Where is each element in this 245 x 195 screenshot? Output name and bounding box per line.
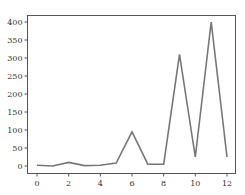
line-chart: 050100150200250300350400 024681012 — [0, 0, 245, 195]
y-tick-label: 50 — [12, 144, 22, 153]
y-tick-label: 200 — [7, 90, 22, 99]
y-tick-label: 250 — [7, 72, 22, 81]
x-tick-label: 6 — [129, 179, 134, 188]
x-tick-label: 8 — [161, 179, 166, 188]
y-tick-label: 100 — [7, 126, 22, 135]
x-tick-label: 10 — [190, 179, 200, 188]
y-tick-label: 150 — [7, 108, 22, 117]
x-axis-ticks: 024681012 — [34, 174, 232, 188]
x-tick-label: 0 — [34, 179, 39, 188]
y-tick-label: 300 — [7, 54, 22, 63]
data-line — [37, 22, 227, 166]
x-tick-label: 12 — [222, 179, 232, 188]
y-tick-label: 350 — [7, 36, 22, 45]
x-tick-label: 4 — [98, 179, 103, 188]
y-tick-label: 400 — [7, 18, 22, 27]
plot-frame — [28, 16, 236, 174]
y-tick-label: 0 — [17, 162, 22, 171]
x-tick-label: 2 — [66, 179, 71, 188]
y-axis-ticks: 050100150200250300350400 — [7, 18, 27, 171]
